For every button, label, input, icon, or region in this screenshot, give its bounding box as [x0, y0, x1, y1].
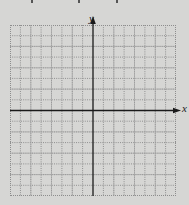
grid-and-axes [0, 0, 189, 205]
x-axis-label: x [182, 103, 187, 114]
x-axis-arrow-icon [173, 108, 181, 114]
y-axis [90, 16, 96, 196]
y-axis-label: y [89, 13, 94, 24]
